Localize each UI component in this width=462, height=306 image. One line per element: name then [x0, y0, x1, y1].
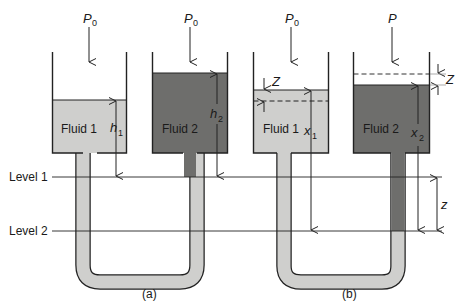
svg-text:2: 2: [218, 114, 223, 124]
z-displacement-right: Z: [430, 64, 455, 95]
svg-text:2: 2: [419, 133, 424, 143]
pressure-label: P: [83, 11, 92, 26]
pressure-arrow-b-right: P: [388, 11, 397, 62]
u-tube-b: [284, 150, 404, 282]
svg-text:1: 1: [118, 128, 123, 138]
beaker-a-fluid1: [53, 52, 127, 153]
svg-text:P: P: [285, 11, 294, 26]
z-level-difference: z: [437, 178, 448, 230]
svg-text:0: 0: [92, 18, 97, 28]
panel-b: P 0 P Z Z Fluid 1 Fluid 2 x 1: [254, 11, 456, 301]
svg-text:0: 0: [193, 18, 198, 28]
fluid2-label: Fluid 2: [162, 122, 198, 136]
svg-text:z: z: [440, 197, 448, 212]
panel-a: P 0 P 0 Fluid 1 Fluid 2 h 1 h 2 (a): [53, 11, 228, 301]
svg-text:x: x: [303, 123, 311, 138]
beaker-b-fluid1: [254, 52, 329, 153]
svg-text:h: h: [110, 120, 117, 135]
svg-text:Z: Z: [271, 74, 281, 89]
fluid1-label: Fluid 1: [263, 122, 299, 136]
pressure-arrow-a-right: P 0: [184, 11, 198, 62]
svg-text:x: x: [410, 125, 418, 140]
caption-a: (a): [142, 287, 157, 301]
svg-text:Level 2: Level 2: [9, 224, 48, 238]
fluid1-label: Fluid 1: [61, 122, 97, 136]
caption-b: (b): [342, 287, 357, 301]
fluid2-label: Fluid 2: [363, 122, 399, 136]
beaker-a-fluid2: [153, 52, 228, 153]
svg-text:Level 1: Level 1: [9, 170, 48, 184]
svg-text:0: 0: [294, 18, 299, 28]
u-tube-a: [83, 150, 197, 282]
pressure-arrow-a-left: P 0: [83, 11, 97, 62]
svg-text:P: P: [388, 11, 397, 26]
svg-text:Z: Z: [445, 72, 455, 87]
manometer-diagram: P 0 P 0 Fluid 1 Fluid 2 h 1 h 2 (a): [0, 0, 462, 306]
pressure-arrow-b-left: P 0: [285, 11, 299, 62]
svg-text:P: P: [184, 11, 193, 26]
svg-text:1: 1: [312, 131, 317, 141]
svg-text:h: h: [210, 106, 217, 121]
